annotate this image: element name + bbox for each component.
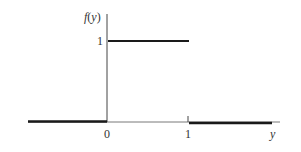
x-tick-label-0: 0: [104, 127, 110, 141]
y-tick-label-1: 1: [97, 34, 103, 48]
step-function-diagram: f(y) 1 0 1 y: [0, 0, 301, 152]
x-tick-label-1: 1: [185, 127, 191, 141]
y-axis-label: f(y): [84, 10, 101, 24]
x-axis-label: y: [269, 127, 276, 141]
